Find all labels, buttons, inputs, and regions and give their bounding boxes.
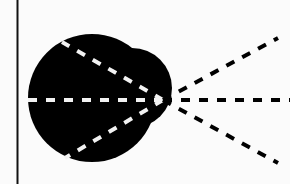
figure-canvas: [0, 0, 290, 184]
right-bump-lobe: [92, 48, 172, 128]
